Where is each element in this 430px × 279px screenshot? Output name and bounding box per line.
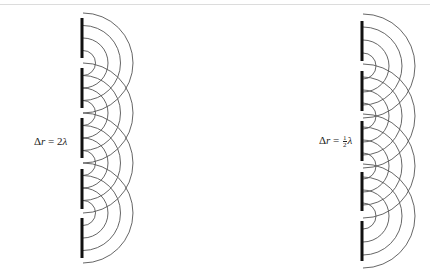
- wavefront-arc: [363, 53, 376, 79]
- equals-sign: =: [45, 135, 57, 147]
- barrier-segment: [361, 21, 364, 61]
- fraction-denominator: 2: [343, 142, 347, 148]
- barrier-segment: [81, 18, 84, 58]
- barrier-segment: [361, 172, 364, 211]
- left-path-difference-label: Δr = 2λ: [34, 135, 67, 147]
- barrier-segment: [81, 218, 84, 258]
- wavefront-arc: [363, 103, 376, 129]
- barrier-segment: [81, 118, 84, 158]
- barrier-segment: [81, 169, 84, 209]
- barrier-segment: [361, 221, 364, 261]
- wavefront-arc: [363, 127, 402, 205]
- wavefront-arc: [363, 177, 402, 255]
- barrier-segment: [361, 71, 364, 111]
- wavefront-arc: [363, 77, 402, 155]
- equals-sign: =: [330, 134, 342, 146]
- lambda-symbol: λ: [63, 135, 68, 147]
- left-double-slit-panel: [81, 13, 134, 263]
- right-path-difference-label: Δr = 12λ: [319, 134, 352, 148]
- barrier-segment: [361, 121, 364, 161]
- one-half-fraction: 12: [343, 135, 347, 148]
- barrier-segment: [81, 68, 84, 108]
- wavefront-arc: [363, 27, 402, 105]
- lambda-symbol: λ: [348, 134, 353, 146]
- right-double-slit-panel: [361, 14, 416, 268]
- wavefront-arc: [363, 203, 376, 229]
- wavefront-arc: [363, 153, 376, 179]
